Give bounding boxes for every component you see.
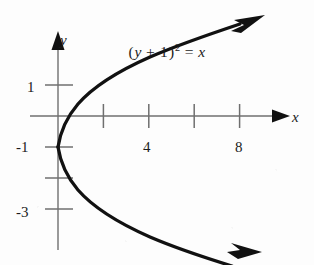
y-tick-label-neg3: -3 — [16, 205, 29, 220]
equation-equals-sign: = — [180, 43, 198, 60]
equation-annotation: (y + 1)2 = x — [128, 44, 205, 60]
x-tick-label-8: 8 — [235, 140, 243, 155]
equation-constant-one: 1 — [160, 43, 169, 60]
x-tick-label-4: 4 — [143, 140, 151, 155]
parabola-lower-branch — [58, 147, 232, 265]
x-axis-label: x — [292, 110, 299, 125]
y-tick-label-1: 1 — [27, 80, 35, 95]
y-axis-label: y — [60, 33, 67, 48]
equation-plus-sign: + — [141, 43, 159, 60]
graph-canvas — [0, 0, 314, 265]
x-axis-arrowhead-icon — [272, 110, 290, 123]
parabola-figure: y x 1 -1 -3 4 8 (y + 1)2 = x — [0, 0, 314, 265]
parabola-lower-arrowhead-icon — [227, 243, 262, 259]
equation-variable-x: x — [198, 43, 205, 60]
y-tick-label-neg1: -1 — [16, 140, 29, 155]
